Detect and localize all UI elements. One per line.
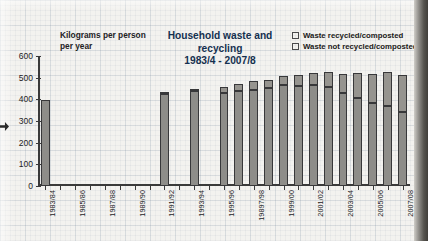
x-tick-label: 1987/88	[108, 190, 117, 217]
bar-1999/00	[279, 76, 288, 186]
bar-segment-not-recycled	[234, 91, 243, 186]
bar-segment-not-recycled	[264, 88, 273, 186]
bar-segment-recycled	[220, 87, 229, 93]
x-tick	[179, 186, 180, 190]
y-tick-label: 300	[19, 116, 33, 126]
left-edge-marker-icon	[0, 122, 9, 131]
bar-segment-not-recycled	[294, 86, 303, 186]
x-tick-label: 19897/98	[257, 190, 266, 221]
bar-1993/94	[190, 89, 199, 186]
y-tick	[36, 56, 41, 57]
bar-segment-not-recycled	[279, 85, 288, 186]
x-tick	[373, 186, 374, 190]
x-tick	[105, 186, 106, 190]
bar-segment-not-recycled	[220, 93, 229, 186]
y-tick-label: 200	[19, 138, 33, 148]
bar-19897/98	[249, 81, 258, 186]
legend-swatch-not-recycled	[292, 43, 299, 50]
bar-segment-not-recycled	[339, 93, 348, 186]
x-tick	[150, 186, 151, 190]
x-tick	[194, 186, 195, 190]
bar-2004/05	[353, 73, 362, 186]
x-tick	[45, 186, 46, 190]
x-tick-label: 1993/94	[197, 190, 206, 217]
bar-segment-recycled	[160, 92, 169, 94]
bar-segment-recycled	[264, 80, 273, 88]
x-tick	[164, 186, 165, 190]
legend-label-not-recycled: Waste not recycled/composted	[303, 42, 418, 51]
chart-legend: Waste recycled/composted Waste not recyc…	[292, 31, 418, 53]
bar-1996/97	[234, 84, 243, 186]
x-tick	[358, 186, 359, 190]
x-tick	[254, 186, 255, 190]
y-tick-label: 400	[19, 94, 33, 104]
bar-1995/96	[220, 87, 229, 186]
bar-segment-not-recycled	[309, 85, 318, 186]
x-tick	[224, 186, 225, 190]
x-tick	[343, 186, 344, 190]
bar-2003/04	[339, 74, 348, 186]
bar-segment-not-recycled	[190, 91, 199, 186]
bar-segment-recycled	[309, 73, 318, 85]
y-tick-label: 0	[28, 181, 33, 191]
x-tick-label: 2001/02	[316, 190, 325, 217]
bar-segment-not-recycled	[41, 100, 50, 186]
bar-segment-recycled	[339, 74, 348, 93]
x-tick-label: 1995/96	[227, 190, 236, 217]
bar-2007/08	[398, 75, 407, 186]
plot-area: 0100200300400500600 1983/841985/861987/8…	[38, 56, 410, 186]
bar-1998/99	[264, 80, 273, 186]
bar-segment-not-recycled	[249, 90, 258, 186]
bar-segment-recycled	[279, 76, 288, 86]
x-tick-label: 1999/00	[287, 190, 296, 217]
x-tick	[328, 186, 329, 190]
bar-1991/92	[160, 93, 169, 186]
page-gutter-shadow	[414, 0, 428, 241]
x-tick	[284, 186, 285, 190]
bar-segment-recycled	[234, 84, 243, 91]
x-tick-label: 1985/86	[78, 190, 87, 217]
bar-segment-recycled	[190, 89, 199, 91]
y-tick-label: 100	[19, 159, 33, 169]
chart-page: Kilograms per person per year Household …	[0, 0, 428, 241]
x-tick-label: 1991/92	[167, 190, 176, 217]
bar-segment-not-recycled	[383, 106, 392, 186]
bar-2001/02	[309, 73, 318, 186]
bar-1983/84	[41, 100, 50, 186]
bar-segment-recycled	[249, 81, 258, 90]
y-tick	[36, 186, 41, 187]
bar-segment-recycled	[368, 74, 377, 102]
x-tick-label: 2003/04	[346, 190, 355, 217]
y-tick-label: 500	[19, 73, 33, 83]
bar-segment-recycled	[398, 75, 407, 112]
x-tick	[269, 186, 270, 190]
x-tick-label: 1989/90	[138, 190, 147, 217]
x-tick	[60, 186, 61, 190]
bar-2005/06	[368, 74, 377, 186]
legend-label-recycled: Waste recycled/composted	[303, 31, 403, 40]
y-tick	[36, 78, 41, 79]
x-tick	[313, 186, 314, 190]
bar-segment-recycled	[353, 73, 362, 97]
x-tick	[209, 186, 210, 190]
x-tick	[239, 186, 240, 190]
bar-segment-not-recycled	[324, 87, 333, 186]
x-tick	[298, 186, 299, 190]
bar-segment-not-recycled	[160, 94, 169, 186]
x-tick	[75, 186, 76, 190]
legend-swatch-recycled	[292, 32, 299, 39]
bar-segment-recycled	[324, 72, 333, 87]
bar-2002/03	[324, 72, 333, 186]
bar-segment-not-recycled	[398, 112, 407, 186]
x-tick	[120, 186, 121, 190]
bar-segment-not-recycled	[368, 103, 377, 186]
bar-2006/07	[383, 72, 392, 186]
x-tick	[135, 186, 136, 190]
bar-2000/01	[294, 75, 303, 186]
chart-title-line1: Household waste and recycling	[144, 30, 296, 55]
bar-segment-recycled	[294, 75, 303, 86]
legend-item-not-recycled: Waste not recycled/composted	[292, 42, 418, 51]
x-tick-label: 2005/06	[376, 190, 385, 217]
x-tick	[403, 186, 404, 190]
y-tick-label: 600	[19, 51, 33, 61]
